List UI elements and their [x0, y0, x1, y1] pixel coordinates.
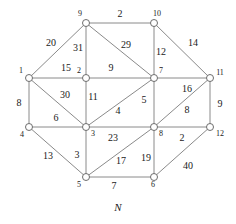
node-label: 1: [19, 67, 23, 75]
edge-weight-label: 13: [43, 151, 53, 161]
graph-node[interactable]: [83, 124, 90, 131]
graph-node[interactable]: [207, 124, 214, 131]
graph-node[interactable]: [151, 124, 158, 131]
node-label: 10: [153, 10, 161, 18]
node-label: 2: [77, 67, 81, 75]
edge-weight-label: 2: [180, 133, 185, 143]
edge-weight-label: 15: [61, 63, 71, 73]
node-label: 4: [20, 131, 24, 139]
node-label: 9: [78, 10, 82, 18]
node-label: 11: [216, 69, 224, 77]
edge-weight-label: 7: [112, 181, 117, 191]
graph-node[interactable]: [151, 75, 158, 82]
edge-weight-label: 19: [141, 153, 151, 163]
edge-weight-label: 17: [116, 156, 126, 166]
graph-node[interactable]: [83, 75, 90, 82]
edge-weight-label: 23: [108, 133, 118, 143]
edge-weight-label: 40: [183, 161, 193, 171]
edge-weight-label: 16: [182, 84, 192, 94]
node-label: 6: [151, 181, 155, 189]
node-label: 12: [216, 130, 224, 138]
node-label: 5: [77, 181, 81, 189]
figure-caption: N: [114, 202, 121, 213]
edges-group: [29, 23, 210, 177]
edge-weight-label: 8: [17, 98, 22, 108]
edge-weight-label: 6: [54, 113, 59, 123]
graph-node[interactable]: [83, 20, 90, 27]
graph-figure: 2203129121415983011451689623213317197401…: [0, 0, 236, 224]
graph-node[interactable]: [207, 75, 214, 82]
edge-weight-label: 31: [73, 43, 83, 53]
edge-weight-label: 29: [121, 40, 131, 50]
graph-node[interactable]: [26, 124, 33, 131]
edge-weight-label: 2: [118, 9, 123, 19]
edge-weight-label: 30: [60, 90, 70, 100]
edge-weight-label: 14: [188, 38, 198, 48]
node-label: 7: [159, 67, 163, 75]
graph-node[interactable]: [26, 75, 33, 82]
graph-node[interactable]: [151, 20, 158, 27]
edge-weight-label: 4: [116, 106, 121, 116]
edge-weight-label: 8: [185, 105, 190, 115]
edge-weight-label: 11: [88, 92, 98, 102]
edge-weight-label: 5: [142, 95, 147, 105]
node-label: 3: [91, 130, 95, 138]
node-label: 8: [159, 130, 163, 138]
graph-edge: [86, 23, 154, 78]
edge-weight-label: 20: [46, 38, 56, 48]
edge-weight-label: 9: [218, 99, 223, 109]
edge-weight-label: 3: [75, 150, 80, 160]
edge-weight-label: 12: [156, 47, 166, 57]
graph-node[interactable]: [83, 174, 90, 181]
edge-weight-label: 9: [109, 63, 114, 73]
